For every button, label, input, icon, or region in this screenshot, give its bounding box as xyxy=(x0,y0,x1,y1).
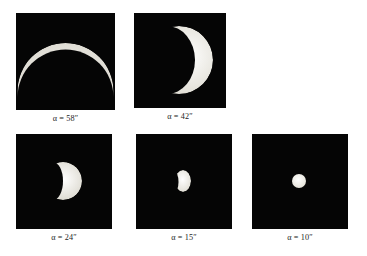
panel-caption-42: α = 42″ xyxy=(134,112,226,121)
sky-field-15 xyxy=(136,134,232,229)
venus-disk-10 xyxy=(252,134,348,229)
sky-field-10 xyxy=(252,134,348,229)
venus-disk-58 xyxy=(16,13,115,110)
panel-caption-24: α = 24″ xyxy=(16,233,112,242)
phase-panel-10: α = 10″ xyxy=(252,134,348,244)
phase-panel-15: α = 15″ xyxy=(136,134,232,244)
panel-caption-10: α = 10″ xyxy=(252,233,348,242)
venus-disk-24 xyxy=(16,134,112,229)
panel-caption-58: α = 58″ xyxy=(16,114,115,123)
sky-field-58 xyxy=(16,13,115,110)
sky-field-24 xyxy=(16,134,112,229)
venus-disk-15 xyxy=(136,134,232,229)
venus-disk-42 xyxy=(134,13,226,108)
sky-field-42 xyxy=(134,13,226,108)
phase-panel-24: α = 24″ xyxy=(16,134,112,244)
panel-caption-15: α = 15″ xyxy=(136,233,232,242)
phase-panel-42: α = 42″ xyxy=(134,13,226,123)
phase-panel-58: α = 58″ xyxy=(16,13,115,123)
venus-phases-figure: α = 58″ xyxy=(0,0,367,256)
